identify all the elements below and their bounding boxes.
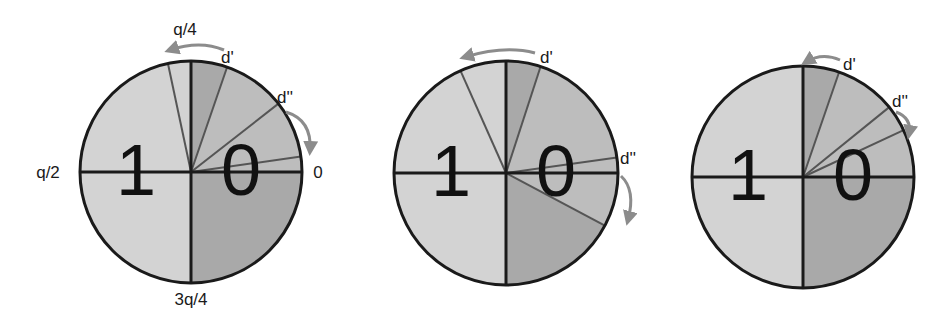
rotation-arrow-d1 — [806, 56, 840, 62]
digit-zero: 0 — [221, 130, 261, 210]
digit-zero: 0 — [833, 135, 873, 215]
axis-label-left: q/2 — [36, 163, 60, 182]
label-d-prime: d' — [540, 48, 553, 67]
rotation-arrow-d1 — [170, 45, 224, 50]
digit-one: 1 — [728, 135, 768, 215]
rotation-arrow-d2 — [621, 176, 631, 220]
label-d-double-prime: d'' — [892, 92, 908, 111]
axis-label-right: 0 — [313, 163, 322, 182]
axis-label-top: q/4 — [173, 20, 197, 39]
label-d-double-prime: d'' — [277, 88, 293, 107]
label-d-double-prime: d'' — [620, 149, 636, 168]
axis-label-bottom: 3q/4 — [174, 290, 207, 309]
digit-one: 1 — [116, 130, 156, 210]
circle-2: 10d'd'' — [394, 48, 636, 285]
circle-1: 10d'd''q/4q/203q/4 — [36, 20, 323, 309]
phase-circle-diagram: 10d'd''q/4q/203q/410d'd''10d'd'' q/4 q/2… — [0, 0, 949, 324]
rotation-arrow-d1 — [465, 50, 535, 57]
digit-one: 1 — [431, 131, 471, 211]
label-d-prime: d' — [221, 48, 234, 67]
diagram-canvas: 10d'd''q/4q/203q/410d'd''10d'd'' — [0, 0, 949, 324]
circle-3: 10d'd'' — [692, 55, 914, 288]
digit-zero: 0 — [536, 131, 576, 211]
label-d-prime: d' — [843, 55, 856, 74]
